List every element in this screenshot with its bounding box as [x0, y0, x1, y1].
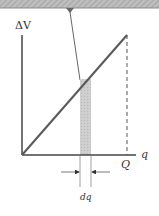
dq-dimension: [61, 156, 110, 187]
y-axis-label: ΔV: [15, 19, 32, 32]
q-max-label: Q: [121, 158, 130, 171]
voltage-vs-charge-line: [22, 35, 127, 155]
top-banner: [0, 0, 159, 8]
charge-strip-dq: [80, 79, 91, 155]
dq-label: dq: [80, 192, 92, 202]
pointer-leader-line: [66, 8, 80, 80]
capacitor-charge-diagram: ΔV q Q dq: [0, 0, 159, 216]
x-axis-label: q: [141, 148, 148, 161]
